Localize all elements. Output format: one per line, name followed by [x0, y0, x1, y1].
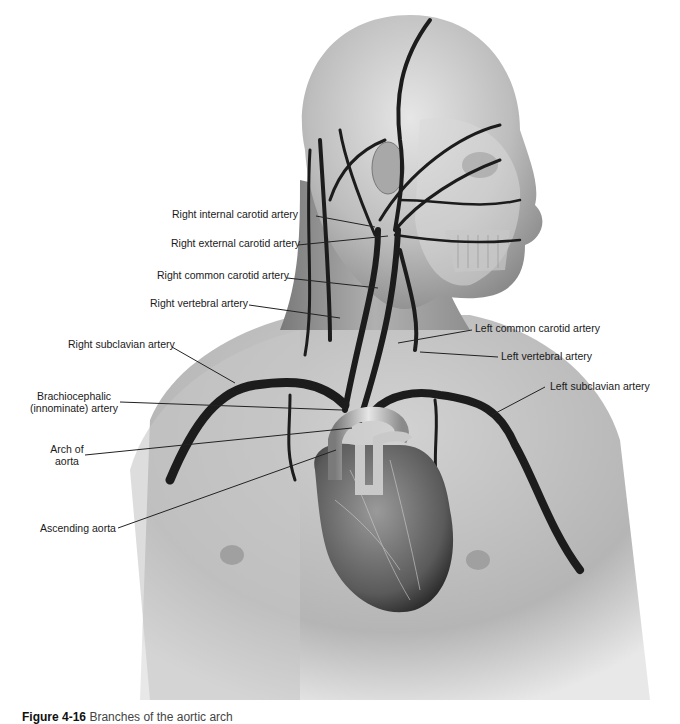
label-right-internal-carotid-artery: Right internal carotid artery [172, 208, 298, 220]
label-brachiocephalic-line1: Brachiocephalic [30, 390, 118, 402]
label-arch-of-aorta: Arch of aorta [48, 443, 86, 467]
label-right-subclavian-artery: Right subclavian artery [68, 338, 175, 350]
figure-number: Figure 4-16 [22, 710, 86, 724]
figure-caption: Figure 4-16 Branches of the aortic arch [22, 710, 233, 724]
label-right-vertebral-artery: Right vertebral artery [150, 297, 248, 309]
figure-caption-text: Branches of the aortic arch [89, 710, 232, 724]
label-arch-line1: Arch of [48, 443, 86, 455]
label-right-common-carotid-artery: Right common carotid artery [157, 269, 289, 281]
label-left-subclavian-artery: Left subclavian artery [550, 380, 650, 392]
label-left-vertebral-artery: Left vertebral artery [501, 350, 592, 362]
label-left-common-carotid-artery: Left common carotid artery [475, 322, 600, 334]
label-brachiocephalic-artery: Brachiocephalic (innominate) artery [30, 390, 118, 414]
label-ascending-aorta: Ascending aorta [40, 522, 116, 534]
label-right-external-carotid-artery: Right external carotid artery [171, 237, 300, 249]
label-arch-line2: aorta [48, 455, 86, 467]
label-brachiocephalic-line2: (innominate) artery [30, 402, 118, 414]
